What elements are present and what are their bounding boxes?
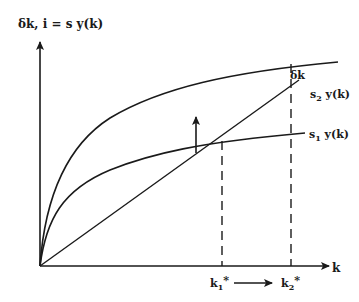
k1-steady-state-label: k1* bbox=[210, 274, 229, 292]
s2-curve-label: s2 y(k) bbox=[310, 88, 350, 103]
x-axis-label: k bbox=[332, 261, 341, 275]
solow-diagram: δk, i = s y(k) k δk s2 y(k) s1 y(k) k1* … bbox=[0, 0, 359, 302]
s1-output-curve bbox=[40, 133, 305, 266]
depreciation-line-label: δk bbox=[290, 69, 305, 82]
depreciation-line bbox=[40, 80, 299, 266]
k2-steady-state-label: k2* bbox=[281, 274, 300, 292]
s2-output-curve bbox=[40, 62, 338, 266]
s1-curve-label: s1 y(k) bbox=[309, 128, 349, 143]
y-axis-label: δk, i = s y(k) bbox=[18, 17, 103, 31]
